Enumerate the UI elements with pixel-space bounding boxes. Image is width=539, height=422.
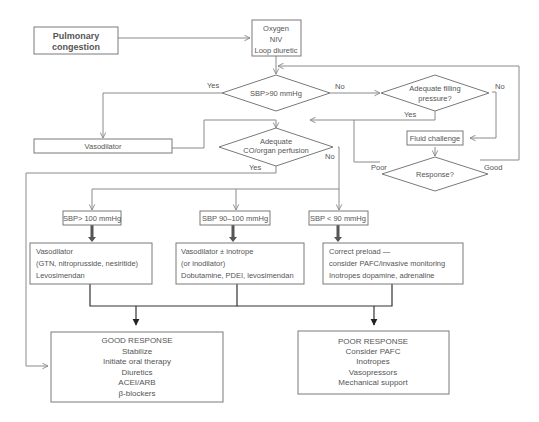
- edge-branch-sbp100: [92, 189, 339, 210]
- decision-sbp-gt-90: SBP>90 mmHg: [222, 75, 330, 111]
- node-label: congestion: [52, 42, 100, 52]
- edge-label-good: Good: [484, 163, 502, 172]
- node-label: Pulmonary: [53, 31, 100, 41]
- node-label: SBP < 90 mmHg: [310, 214, 366, 223]
- node-label: Vasodilator: [36, 247, 73, 256]
- edge-label-yes: Yes: [249, 163, 261, 172]
- edge-treat-merge-poor: [237, 284, 392, 306]
- node-label: Correct preload —: [329, 247, 391, 256]
- node-label: Inotropes dopamine, adrenaline: [329, 271, 435, 280]
- node-label: Stabilize: [122, 347, 153, 356]
- node-label: SBP 90–100 mmHg: [202, 214, 268, 223]
- node-label: Levosimendan: [36, 271, 85, 280]
- node-label: Vasodilator: [85, 142, 122, 151]
- node-label: ACEI/ARB: [118, 378, 155, 387]
- edge-treat-merge-good: [90, 284, 237, 306]
- node-treatment-inotrope: Vasodilator ± inotrope (or inodilator) D…: [176, 243, 304, 284]
- node-treatment-vasodilator: Vasodilator (GTN, nitroprusside, nesirit…: [30, 243, 152, 284]
- node-label: pressure?: [418, 94, 451, 103]
- node-label: Loop diuretic: [255, 46, 298, 55]
- edge-label-poor: Poor: [371, 163, 387, 172]
- edge-filling-no: [470, 92, 496, 138]
- edge-label-no: No: [335, 82, 345, 91]
- node-label: POOR RESPONSE: [338, 337, 408, 346]
- node-label: Vasopressors: [349, 368, 397, 377]
- node-label: NIV: [270, 35, 283, 44]
- node-label: Response?: [416, 170, 454, 179]
- node-good-response: GOOD RESPONSE Stabilize Initiate oral th…: [51, 332, 223, 402]
- node-label: (or inodilator): [181, 259, 226, 268]
- edge-label-no: No: [495, 82, 505, 91]
- node-label: consider PAFC/invasive monitoring: [329, 259, 445, 268]
- edge-label-yes: Yes: [404, 110, 416, 119]
- node-label: SBP> 100 mmHg: [63, 214, 121, 223]
- node-label: Fluid challenge: [410, 134, 460, 143]
- node-label: β-blockers: [118, 389, 155, 398]
- edge-response-poor: [354, 120, 380, 162]
- node-fluid-challenge: Fluid challenge: [407, 131, 463, 145]
- decision-adequate-filling: Adequate filling pressure?: [381, 75, 489, 111]
- edge-label-yes: Yes: [207, 81, 219, 90]
- node-label: Consider PAFC: [346, 347, 401, 356]
- node-label: GOOD RESPONSE: [101, 336, 172, 345]
- decision-response: Response?: [382, 157, 488, 191]
- node-label: Inotropes: [356, 357, 389, 366]
- node-label: SBP>90 mmHg: [250, 89, 302, 98]
- node-label: Dobutamine, PDEI, levosimendan: [181, 271, 294, 280]
- node-label: (GTN, nitroprusside, nesiritide): [36, 259, 139, 268]
- node-label: Mechanical support: [338, 378, 408, 387]
- flowchart: Pulmonary congestion Oxygen NIV Loop diu…: [0, 0, 539, 422]
- edge-label-no: No: [325, 152, 335, 161]
- decision-adequate-perfusion: Adequate CO/organ perfusion: [219, 128, 333, 166]
- edge-filling-yes: [310, 111, 435, 120]
- node-sbp-lt-90: SBP < 90 mmHg: [309, 211, 368, 225]
- node-treatment-correct-preload: Correct preload — consider PAFC/invasive…: [323, 243, 463, 284]
- node-sbp-90-100: SBP 90–100 mmHg: [200, 211, 270, 225]
- node-poor-response: POOR RESPONSE Consider PAFC Inotropes Va…: [298, 331, 449, 394]
- edge-perfusion-no: [338, 147, 339, 210]
- node-label: Adequate: [260, 137, 292, 146]
- node-label: Initiate oral therapy: [103, 357, 171, 366]
- node-pulmonary-congestion: Pulmonary congestion: [34, 27, 118, 54]
- node-label: CO/organ perfusion: [243, 146, 308, 155]
- node-label: Adequate filling: [409, 84, 460, 93]
- node-label: Vasodilator ± inotrope: [181, 247, 253, 256]
- node-vasodilator: Vasodilator: [34, 139, 172, 153]
- node-initial-treatment: Oxygen NIV Loop diuretic: [252, 20, 301, 56]
- node-sbp-gt-100: SBP> 100 mmHg: [63, 211, 121, 225]
- node-label: Oxygen: [263, 24, 289, 33]
- node-label: Diuretics: [121, 368, 152, 377]
